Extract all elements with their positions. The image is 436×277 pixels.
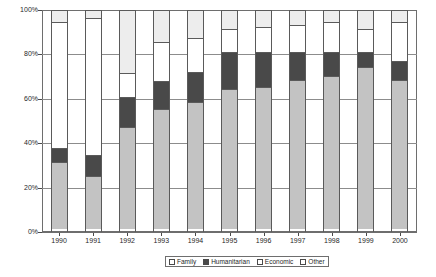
bar-segment-humanitarian[interactable] bbox=[392, 61, 407, 81]
legend-label: Humanitarian bbox=[211, 258, 250, 265]
y-axis-tick-label: 20% bbox=[24, 184, 38, 191]
x-axis-tick bbox=[93, 233, 94, 236]
y-axis-tick-label: 80% bbox=[24, 50, 38, 57]
economic-swatch-icon bbox=[257, 259, 263, 265]
bar-segment-humanitarian[interactable] bbox=[154, 81, 169, 110]
x-axis-tick-label: 1997 bbox=[281, 237, 315, 245]
stacked-bar[interactable] bbox=[357, 10, 374, 232]
bar-segment-economic[interactable] bbox=[290, 25, 305, 54]
x-axis-tick bbox=[127, 233, 128, 236]
x-axis-tick-label: 1990 bbox=[42, 237, 76, 245]
bar-segment-humanitarian[interactable] bbox=[188, 72, 203, 103]
stacked-bar[interactable] bbox=[289, 10, 306, 232]
bar-slot bbox=[144, 10, 178, 232]
stacked-bar[interactable] bbox=[187, 10, 204, 232]
x-axis-tick-label: 1999 bbox=[349, 237, 383, 245]
bar-slot bbox=[178, 10, 212, 232]
bar-segment-family[interactable] bbox=[154, 109, 169, 229]
humanitarian-swatch-icon bbox=[203, 259, 209, 265]
bar-segment-economic[interactable] bbox=[52, 22, 67, 149]
stacked-bar[interactable] bbox=[85, 10, 102, 232]
bar-segment-other[interactable] bbox=[120, 10, 135, 74]
bar-segment-other[interactable] bbox=[290, 10, 305, 26]
bar-segment-humanitarian[interactable] bbox=[324, 52, 339, 76]
x-axis-tick bbox=[332, 233, 333, 236]
bar-slot bbox=[383, 10, 417, 232]
bar-segment-humanitarian[interactable] bbox=[222, 52, 237, 90]
legend-item[interactable]: Family bbox=[169, 258, 196, 265]
bar-slot bbox=[212, 10, 246, 232]
bar-segment-humanitarian[interactable] bbox=[290, 52, 305, 81]
x-axis-tick-group: 1994 bbox=[178, 233, 212, 247]
stacked-bar[interactable] bbox=[51, 10, 68, 232]
legend-item[interactable]: Humanitarian bbox=[203, 258, 250, 265]
bar-segment-economic[interactable] bbox=[154, 42, 169, 82]
bar-segment-other[interactable] bbox=[392, 10, 407, 23]
x-axis-tick bbox=[59, 233, 60, 236]
y-axis-tick-label: 60% bbox=[24, 95, 38, 102]
stacked-bar[interactable] bbox=[153, 10, 170, 232]
x-axis-tick-group: 1991 bbox=[76, 233, 110, 247]
bar-segment-economic[interactable] bbox=[256, 27, 271, 54]
bar-slot bbox=[42, 10, 76, 232]
x-axis-tick-group: 2000 bbox=[383, 233, 417, 247]
family-swatch-icon bbox=[169, 259, 175, 265]
bar-segment-economic[interactable] bbox=[222, 29, 237, 53]
legend-label: Other bbox=[308, 258, 324, 265]
x-axis-tick bbox=[161, 233, 162, 236]
bar-slot bbox=[315, 10, 349, 232]
bar-segment-humanitarian[interactable] bbox=[86, 155, 101, 177]
bar-segment-other[interactable] bbox=[358, 10, 373, 30]
legend-item[interactable]: Economic bbox=[257, 258, 294, 265]
bar-slot bbox=[247, 10, 281, 232]
bar-segment-other[interactable] bbox=[222, 10, 237, 30]
legend-item[interactable]: Other bbox=[300, 258, 324, 265]
x-axis-tick-group: 1993 bbox=[144, 233, 178, 247]
bar-group bbox=[42, 10, 417, 232]
x-axis-tick-label: 2000 bbox=[383, 237, 417, 245]
x-axis-tick-label: 1993 bbox=[144, 237, 178, 245]
bar-segment-humanitarian[interactable] bbox=[120, 97, 135, 128]
bar-segment-humanitarian[interactable] bbox=[52, 148, 67, 164]
stacked-bar-chart: 0%20%40%60%80%100% 199019911992199319941… bbox=[0, 0, 436, 277]
bar-segment-family[interactable] bbox=[86, 176, 101, 229]
bar-segment-economic[interactable] bbox=[188, 38, 203, 74]
x-axis-tick-group: 1996 bbox=[247, 233, 281, 247]
bar-segment-humanitarian[interactable] bbox=[256, 52, 271, 88]
bar-segment-other[interactable] bbox=[188, 10, 203, 39]
stacked-bar[interactable] bbox=[221, 10, 238, 232]
bar-segment-economic[interactable] bbox=[324, 22, 339, 53]
bar-segment-family[interactable] bbox=[358, 67, 373, 229]
bar-segment-humanitarian[interactable] bbox=[358, 52, 373, 68]
stacked-bar[interactable] bbox=[323, 10, 340, 232]
chart-legend: FamilyHumanitarianEconomicOther bbox=[165, 256, 329, 267]
stacked-bar[interactable] bbox=[255, 10, 272, 232]
bar-segment-economic[interactable] bbox=[120, 73, 135, 97]
bar-segment-other[interactable] bbox=[154, 10, 169, 43]
bar-segment-economic[interactable] bbox=[86, 18, 101, 156]
bar-segment-family[interactable] bbox=[120, 127, 135, 229]
bar-segment-other[interactable] bbox=[52, 10, 67, 23]
bar-slot bbox=[110, 10, 144, 232]
bar-slot bbox=[281, 10, 315, 232]
bar-segment-other[interactable] bbox=[324, 10, 339, 23]
bar-segment-family[interactable] bbox=[324, 76, 339, 229]
x-axis-tick-group: 1990 bbox=[42, 233, 76, 247]
bar-segment-family[interactable] bbox=[256, 87, 271, 229]
x-axis-tick-group: 1992 bbox=[110, 233, 144, 247]
bar-segment-family[interactable] bbox=[188, 102, 203, 229]
bar-segment-family[interactable] bbox=[290, 80, 305, 229]
stacked-bar[interactable] bbox=[119, 10, 136, 232]
x-axis-tick-label: 1995 bbox=[212, 237, 246, 245]
x-axis-tick bbox=[195, 233, 196, 236]
bar-segment-family[interactable] bbox=[222, 89, 237, 229]
legend-label: Family bbox=[177, 258, 196, 265]
bar-segment-economic[interactable] bbox=[358, 29, 373, 53]
bar-segment-economic[interactable] bbox=[392, 22, 407, 62]
x-axis-tick-label: 1991 bbox=[76, 237, 110, 245]
y-axis-tick-label: 0% bbox=[28, 228, 38, 235]
bar-segment-family[interactable] bbox=[392, 80, 407, 229]
bar-segment-other[interactable] bbox=[256, 10, 271, 28]
bar-segment-family[interactable] bbox=[52, 162, 67, 229]
stacked-bar[interactable] bbox=[391, 10, 408, 232]
